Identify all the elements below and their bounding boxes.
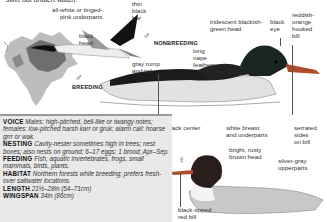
info-voice: VOICE Males: high-pitched, bell-like or … [3, 118, 172, 140]
cut-header-text: swift but unalert watch. [6, 0, 77, 3]
label-thin-black-bar: thin black bar [132, 0, 146, 21]
label-black-tipped-bill: black-tipped red bill [178, 206, 211, 220]
breeding-label: BREEDING [72, 84, 103, 90]
female-symbol: ♀ [178, 154, 186, 165]
label-nape-feathers: long nape feathers [193, 47, 215, 68]
label-black-head: black head [79, 32, 93, 46]
leader-black-eye [280, 38, 281, 46]
label-black-center: black center [167, 124, 200, 131]
info-habitat: HABITAT Northern forests while breeding;… [3, 170, 172, 185]
label-rusty-head: bright, rusty brown head [229, 146, 261, 160]
info-wingspan: WINGSPAN 34in (86cm) [3, 192, 172, 199]
leader-serrated-bill [292, 45, 293, 115]
label-iridescent-head: iridescent blackish- green head [210, 18, 263, 32]
info-nesting: NESTING Cavity-nester sometimes high in … [3, 140, 172, 155]
info-length: LENGTH 21½–28in (54–71cm) [3, 185, 172, 192]
label-hooked-bill: reddish- orange hooked bill [292, 11, 314, 39]
label-serrated-bill: serrated sides on bill [294, 124, 317, 145]
label-gray-rump: gray rump and tail [132, 60, 160, 74]
leader-female-bill [180, 173, 181, 207]
info-box: VOICE Males: high-pitched, bell-like or … [0, 114, 172, 222]
label-underparts: all-white or tinged- pink underparts [52, 6, 103, 20]
info-feeding: FEEDING Fish, aquatic invertebrates, fro… [3, 155, 172, 170]
male-symbol-breeding: ♂ [75, 72, 83, 83]
label-silver-gray: silver-gray upperparts [278, 157, 308, 171]
label-black-eye: black eye [270, 18, 284, 32]
label-white-breast: white breast and underparts [226, 124, 268, 138]
